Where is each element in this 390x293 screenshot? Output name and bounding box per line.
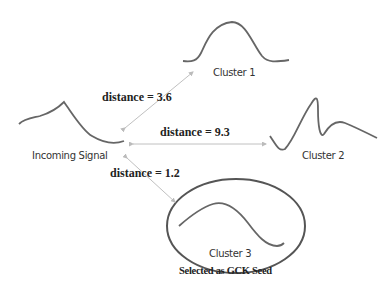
cluster1-label: Cluster 1	[213, 67, 255, 78]
distance-label-cluster2: distance = 9.3	[160, 125, 230, 140]
cluster3-label: Cluster 3	[209, 248, 251, 259]
cluster1-waveform	[183, 22, 289, 61]
cluster2-label: Cluster 2	[302, 150, 344, 161]
distance-label-cluster1: distance = 3.6	[102, 90, 172, 105]
gck-seed-note: Selected as GCK Seed	[179, 265, 272, 276]
incoming-signal-label: Incoming Signal	[32, 150, 108, 161]
distance-label-cluster3: distance = 1.2	[110, 166, 180, 181]
cluster3-waveform	[179, 203, 284, 246]
diagram-canvas	[0, 0, 390, 293]
incoming-signal-waveform	[19, 102, 124, 143]
cluster2-waveform	[270, 98, 377, 149]
